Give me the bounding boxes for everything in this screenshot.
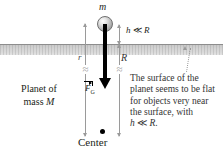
height-h-bottom-arrowhead bbox=[117, 41, 121, 45]
height-h-rhs: R bbox=[144, 25, 150, 35]
distance-r-top-arrowhead bbox=[83, 23, 87, 27]
caption-line-2: planet seems to be bbox=[130, 84, 200, 94]
planet-mass-symbol: M bbox=[46, 96, 54, 107]
height-h-label: h ≪ R bbox=[126, 26, 150, 35]
planet-surface-line bbox=[0, 44, 223, 45]
gravitational-force-arrow-head bbox=[99, 78, 111, 89]
planet-label-line2-prefix: mass bbox=[24, 96, 47, 107]
radius-R-break-mark: ≈ bbox=[115, 65, 124, 74]
caption-line-1: The surface of the bbox=[130, 73, 199, 83]
distance-r-dimension-line bbox=[85, 24, 86, 136]
force-vector-symbol: F bbox=[85, 84, 91, 93]
distance-r-break-mark: ≈ bbox=[81, 65, 90, 74]
caption-line-5-prefix: with bbox=[176, 107, 193, 117]
gravitational-force-label: FG bbox=[85, 84, 95, 97]
height-h-operator: ≪ bbox=[131, 25, 145, 35]
height-h-top-arrowhead bbox=[117, 24, 121, 28]
radius-R-dimension-line bbox=[119, 45, 120, 136]
caption-leader-arrowhead bbox=[183, 46, 187, 50]
caption-period: . bbox=[155, 118, 157, 128]
planet-center-dot bbox=[100, 129, 105, 134]
planet-mass-label: Planet of mass M bbox=[6, 82, 72, 108]
gravitational-force-arrow-shaft bbox=[103, 24, 107, 80]
caption-operator: ≪ bbox=[135, 118, 150, 128]
physics-diagram-figure: ≈ r ≈ R h ≪ R m FG Planet of mass M Cent… bbox=[0, 0, 223, 153]
radius-R-bottom-arrowhead bbox=[117, 133, 121, 137]
radius-R-label: R bbox=[121, 53, 127, 63]
planet-label-line1: Planet of bbox=[21, 83, 57, 94]
explanatory-caption: The surface of the planet seems to be fl… bbox=[130, 73, 222, 129]
vector-arrow-icon bbox=[89, 81, 92, 85]
force-vector-subscript: G bbox=[91, 89, 95, 95]
distance-r-label: r bbox=[78, 53, 82, 62]
mass-m-label: m bbox=[99, 2, 106, 12]
planet-center-label: Center bbox=[78, 136, 107, 148]
